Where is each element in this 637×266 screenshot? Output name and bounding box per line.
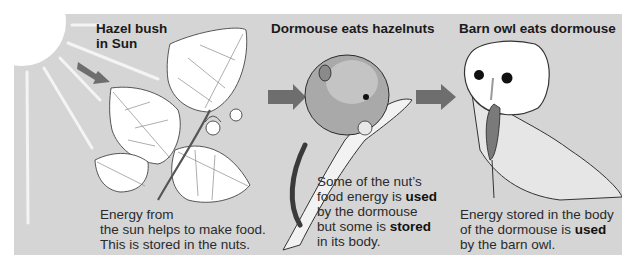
emphasis-stored: stored xyxy=(390,219,431,234)
caption-line: Energy stored in the body xyxy=(460,207,614,222)
caption-line: but some is stored xyxy=(317,219,437,234)
stage-owl-title: Barn owl eats dormouse xyxy=(459,21,616,36)
title-line: in Sun xyxy=(96,36,167,51)
stage-owl-caption: Energy stored in the body of the dormous… xyxy=(460,207,614,252)
stage-dormouse-title: Dormouse eats hazelnuts xyxy=(271,21,435,36)
caption-line: This is stored in the nuts. xyxy=(100,237,266,252)
caption-line: in its body. xyxy=(317,234,437,249)
caption-line: by the barn owl. xyxy=(460,237,614,252)
caption-line: food energy is used xyxy=(317,189,437,204)
caption-text: but some is xyxy=(317,219,390,234)
caption-line: Some of the nut’s xyxy=(317,174,437,189)
hazel-bush-icon xyxy=(95,28,250,202)
arrow-dormouse-to-owl-icon xyxy=(416,84,456,110)
emphasis-used: used xyxy=(406,189,438,204)
stage-dormouse-caption: Some of the nut’s food energy is used by… xyxy=(317,174,437,249)
caption-line: the sun helps to make food. xyxy=(100,222,266,237)
caption-text: food energy is xyxy=(317,189,406,204)
arrow-hazel-to-dormouse-icon xyxy=(268,84,306,110)
stage-hazel-title: Hazel bush in Sun xyxy=(96,21,167,51)
caption-line: Energy from xyxy=(100,207,266,222)
emphasis-used: used xyxy=(575,222,607,237)
stage-hazel-caption: Energy from the sun helps to make food. … xyxy=(100,207,266,252)
barn-owl-icon xyxy=(465,41,622,200)
food-chain-panel: Hazel bush in Sun Energy from the sun he… xyxy=(14,14,622,255)
title-line: Hazel bush xyxy=(96,21,167,36)
caption-line: by the dormouse xyxy=(317,204,437,219)
caption-line: of the dormouse is used xyxy=(460,222,614,237)
caption-text: of the dormouse is xyxy=(460,222,575,237)
